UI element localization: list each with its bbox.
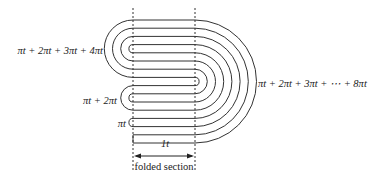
left-fold-arc	[121, 36, 133, 61]
right-fold-arc	[195, 77, 199, 85]
left-fold-arc	[129, 45, 133, 53]
right-fold-arc	[195, 36, 240, 126]
arrow-left-icon	[134, 154, 141, 159]
strip-lines	[104, 20, 256, 143]
left-fold-arc	[113, 28, 133, 69]
section-arrow	[134, 154, 194, 159]
right-fold-arc	[195, 45, 232, 119]
label-left-group-1: πt + 2πt + 3πt + 4πt	[18, 45, 105, 56]
left-fold-arc	[129, 94, 133, 102]
diagram-canvas: πt + 2πt + 3πt + 4πt πt + 2πt πt πt + 2π…	[0, 0, 383, 178]
right-fold-arc	[195, 69, 207, 94]
arrow-right-icon	[187, 154, 194, 159]
left-fold-arc	[121, 86, 133, 111]
left-fold-arc	[129, 118, 133, 126]
label-folded-section: folded section	[134, 161, 194, 172]
label-left-group-3: πt	[118, 118, 127, 129]
label-left-group-2: πt + 2πt	[83, 95, 118, 106]
label-thickness: 1t	[161, 138, 170, 149]
label-right-group: πt + 2πt + 3πt + ⋯ + 8πt	[258, 78, 368, 89]
right-fold-arc	[195, 61, 215, 102]
